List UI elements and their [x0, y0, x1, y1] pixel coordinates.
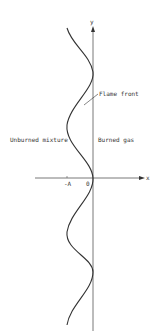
y-axis-label: y — [90, 19, 94, 25]
x-axis-arrow-icon — [139, 176, 145, 180]
unburned-mixture-label: Unburned mixture — [10, 137, 68, 143]
burned-gas-label: Burned gas — [98, 137, 134, 143]
tick-label-zero: 0 — [86, 181, 90, 187]
y-axis-arrow-icon — [91, 26, 95, 32]
flame-front-diagram — [0, 0, 159, 331]
flame-front-curve — [67, 28, 93, 325]
x-axis-label: x — [146, 175, 150, 181]
flame-front-leader — [84, 94, 98, 105]
tick-label-neg-a: -A — [64, 181, 71, 187]
flame-front-label: Flame front — [99, 91, 139, 97]
